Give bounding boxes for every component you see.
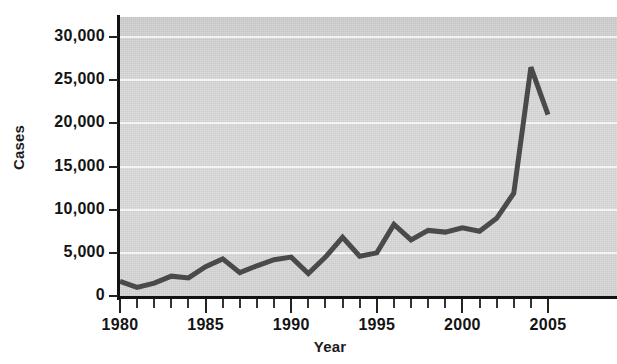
x-axis-tick-minor [359,299,361,308]
y-axis-tick [109,166,118,168]
x-axis-line [117,296,617,299]
x-axis-tick-minor [273,299,275,308]
x-axis-tick-minor [513,299,515,308]
x-axis-tick-minor [222,299,224,308]
y-axis-tick-label: 0 [0,286,105,304]
x-axis-tick-minor [136,299,138,308]
plot-area [120,17,617,297]
y-axis-tick [109,252,118,254]
x-axis-tick-minor [410,299,412,308]
y-axis-tick-label: 20,000 [0,113,105,131]
y-axis-tick-label: 10,000 [0,200,105,218]
x-axis-tick-major [547,299,549,313]
x-axis-tick-minor [324,299,326,308]
x-axis-tick-label: 1985 [161,316,251,334]
y-axis-tick-label: 30,000 [0,27,105,45]
x-axis-tick-minor [307,299,309,308]
x-axis-tick-label: 1990 [246,316,336,334]
x-axis-tick-label: 1980 [75,316,165,334]
x-axis-tick-major [290,299,292,313]
y-axis-line [117,15,120,300]
x-axis-tick-major [376,299,378,313]
x-axis-tick-minor [342,299,344,308]
y-axis-tick-label: 15,000 [0,157,105,175]
x-axis-tick-label: 2005 [503,316,593,334]
x-axis-tick-label: 2000 [417,316,507,334]
y-axis-tick [109,295,118,297]
series-polyline [120,67,548,287]
y-axis-tick-label: 25,000 [0,70,105,88]
x-axis-tick-minor [256,299,258,308]
x-axis-tick-minor [170,299,172,308]
x-axis-tick-label: 1995 [332,316,422,334]
x-axis-tick-minor [479,299,481,308]
x-axis-title: Year [120,338,540,355]
x-axis-tick-minor [530,299,532,308]
y-axis-tick [109,36,118,38]
y-axis-tick-label: 5,000 [0,243,105,261]
x-axis-tick-minor [239,299,241,308]
x-axis-tick-minor [393,299,395,308]
x-axis-tick-major [119,299,121,313]
x-axis-tick-minor [427,299,429,308]
y-axis-tick [109,209,118,211]
x-axis-tick-minor [187,299,189,308]
x-axis-tick-minor [444,299,446,308]
y-axis-tick [109,122,118,124]
line-chart: Cases 05,00010,00015,00020,00025,00030,0… [0,0,617,364]
x-axis-tick-major [461,299,463,313]
series-line-cases [120,17,617,297]
x-axis-tick-major [205,299,207,313]
x-axis-tick-minor [153,299,155,308]
x-axis-tick-minor [496,299,498,308]
y-axis-tick [109,79,118,81]
